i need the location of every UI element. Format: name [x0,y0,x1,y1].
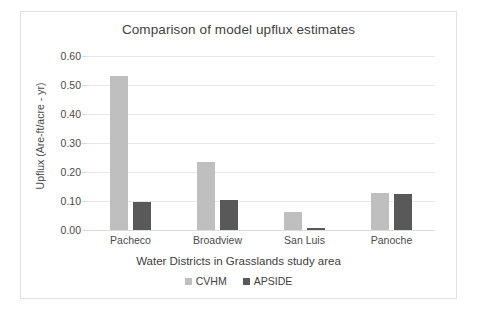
bar-apside-broadview [220,200,238,230]
legend-label: APSIDE [254,275,293,287]
gridline [87,85,435,86]
legend-label: CVHM [196,275,227,287]
bar-apside-panoche [394,194,412,230]
x-axis-tick-label: Broadview [193,234,242,246]
y-axis-tick-label: 0.00 [39,224,81,236]
bar-cvhm-panoche [371,193,389,230]
legend-swatch-icon [185,278,192,285]
y-axis-tick-mark [82,172,87,173]
y-axis-tick-mark [82,114,87,115]
y-axis-tick-label: 0.10 [39,195,81,207]
y-axis-tick-label: 0.50 [39,79,81,91]
bar-cvhm-san-luis [284,212,302,230]
x-axis-tick-label: Panoche [371,234,412,246]
y-axis-tick-mark [82,230,87,231]
y-axis-tick-label: 0.40 [39,108,81,120]
x-axis-title: Water Districts in Grasslands study area [20,255,457,267]
legend-item-apside[interactable]: APSIDE [243,275,293,287]
bar-cvhm-broadview [197,162,215,230]
chart-title: Comparison of model upflux estimates [20,22,457,37]
chart-legend: CVHMAPSIDE [20,275,457,287]
gridline [87,114,435,115]
legend-swatch-icon [243,278,250,285]
x-axis-tick-label: San Luis [284,234,325,246]
x-axis-tick-label: Pacheco [110,234,151,246]
bar-apside-pacheco [133,202,151,230]
plot-area [87,56,435,230]
y-axis-tick-label: 0.60 [39,50,81,62]
chart-figure: Comparison of model upflux estimates Upf… [0,0,479,316]
y-axis-tick-mark [82,85,87,86]
gridline [87,143,435,144]
y-axis-tick-labels: 0.000.100.200.300.400.500.60 [37,56,81,230]
gridline [87,172,435,173]
y-axis-tick-label: 0.20 [39,166,81,178]
gridline [87,230,435,231]
bar-apside-san-luis [307,228,325,230]
y-axis-tick-mark [82,201,87,202]
y-axis-tick-mark [82,56,87,57]
bar-cvhm-pacheco [110,76,128,230]
y-axis-tick-mark [82,143,87,144]
y-axis-tick-label: 0.30 [39,137,81,149]
gridline [87,56,435,57]
legend-item-cvhm[interactable]: CVHM [185,275,227,287]
